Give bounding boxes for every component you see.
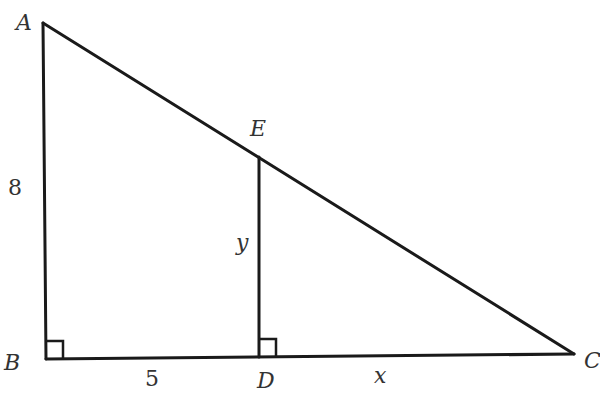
vertex-label-b: B (3, 350, 20, 375)
side-label-ed: y (235, 230, 249, 255)
vertex-label-d: D (256, 368, 275, 393)
right-angle-marker-b (46, 341, 63, 359)
vertex-label-c: C (584, 348, 600, 373)
triangle-diagram: A B C D E 8 5 x y (0, 0, 600, 395)
vertex-label-e: E (249, 116, 266, 141)
segment-bc (46, 354, 574, 359)
side-label-ab: 8 (8, 175, 22, 200)
vertex-label-a: A (14, 10, 32, 35)
segment-ac-hypotenuse (43, 23, 574, 354)
side-label-bd: 5 (145, 366, 159, 391)
right-angle-marker-d (259, 339, 276, 357)
segment-ab (43, 23, 46, 359)
side-label-dc: x (374, 363, 387, 388)
